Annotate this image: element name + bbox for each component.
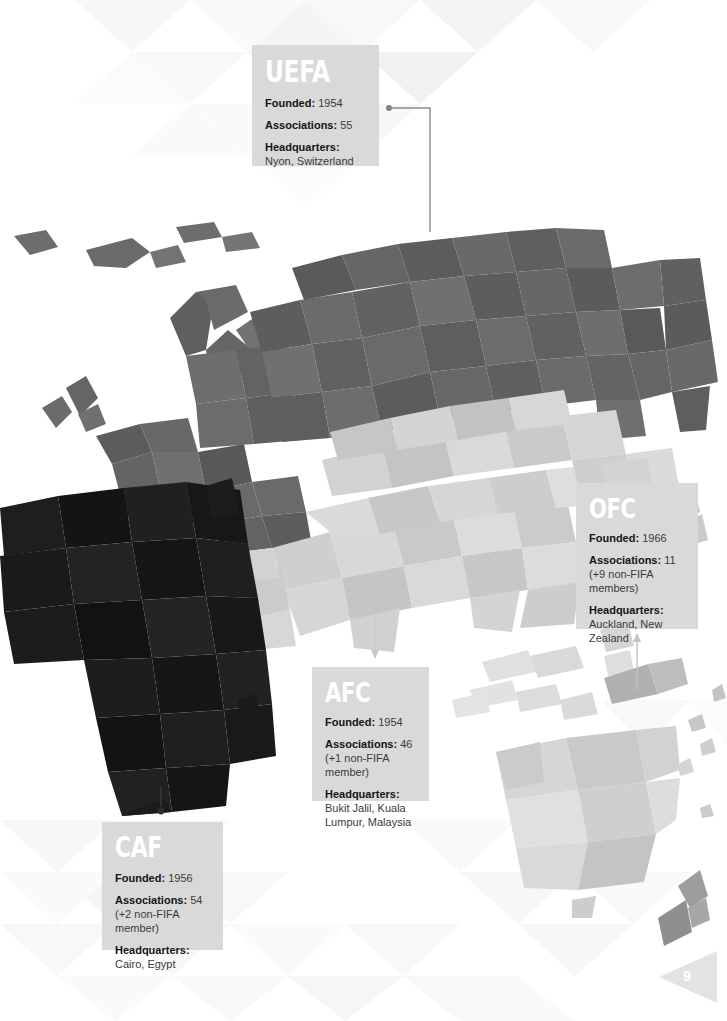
founded-label: Founded: [589, 532, 639, 544]
founded-row-caf: Founded: 1956 [115, 871, 210, 885]
info-box-uefa[interactable]: UEFA Founded: 1954 Associations: 55 Head… [252, 45, 379, 166]
founded-value: 1966 [642, 532, 666, 544]
headquarters-row-uefa: Headquarters: Nyon, Switzerland [265, 140, 366, 168]
founded-row-ofc: Founded: 1966 [589, 531, 685, 545]
headquarters-label: Headquarters: [589, 604, 664, 616]
headquarters-label: Headquarters: [115, 944, 190, 956]
founded-value: 1954 [318, 97, 342, 109]
page-number: 9 [683, 967, 691, 984]
confederation-title-uefa: UEFA [265, 57, 344, 87]
info-box-caf[interactable]: CAF Founded: 1956 Associations: 54 (+2 n… [102, 822, 223, 950]
headquarters-label: Headquarters: [325, 788, 400, 800]
infographic-page: UEFA Founded: 1954 Associations: 55 Head… [0, 0, 727, 1021]
associations-row-uefa: Associations: 55 [265, 118, 366, 132]
founded-value: 1956 [168, 872, 192, 884]
headquarters-value: Bukit Jalil, Kuala Lumpur, Malaysia [325, 801, 416, 829]
founded-label: Founded: [115, 872, 165, 884]
info-box-ofc[interactable]: OFC Founded: 1966 Associations: 11 (+9 n… [576, 483, 698, 629]
headquarters-row-afc: Headquarters: Bukit Jalil, Kuala Lumpur,… [325, 787, 416, 829]
headquarters-value: Nyon, Switzerland [265, 154, 366, 168]
founded-row-uefa: Founded: 1954 [265, 96, 366, 110]
confederation-title-ofc: OFC [589, 495, 664, 522]
associations-value: 55 [340, 119, 352, 131]
associations-row-caf: Associations: 54 (+2 non-FIFA member) [115, 893, 210, 935]
confederation-title-afc: AFC [325, 679, 396, 706]
page-number-marker: 9 [659, 951, 717, 1003]
headquarters-label: Headquarters: [265, 141, 340, 153]
associations-label: Associations: [115, 894, 187, 906]
headquarters-row-ofc: Headquarters: Auckland, New Zealand [589, 603, 685, 645]
founded-value: 1954 [378, 716, 402, 728]
associations-label: Associations: [325, 738, 397, 750]
founded-label: Founded: [265, 97, 315, 109]
headquarters-value: Auckland, New Zealand [589, 617, 685, 645]
map-region-caf [0, 478, 276, 816]
associations-label: Associations: [265, 119, 337, 131]
associations-label: Associations: [589, 554, 661, 566]
associations-row-afc: Associations: 46 (+1 non-FIFA member) [325, 737, 416, 779]
confederation-title-caf: CAF [115, 834, 189, 862]
founded-label: Founded: [325, 716, 375, 728]
associations-row-ofc: Associations: 11 (+9 non-FIFA members) [589, 553, 685, 595]
founded-row-afc: Founded: 1954 [325, 715, 416, 729]
info-box-afc[interactable]: AFC Founded: 1954 Associations: 46 (+1 n… [312, 667, 429, 801]
headquarters-row-caf: Headquarters: Cairo, Egypt [115, 943, 210, 971]
headquarters-value: Cairo, Egypt [115, 957, 210, 971]
